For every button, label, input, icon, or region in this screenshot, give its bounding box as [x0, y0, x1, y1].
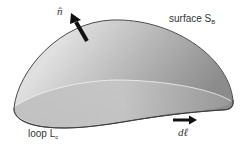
loop-label: loop Lc	[28, 128, 58, 140]
surface-label: surface SB	[169, 13, 215, 25]
surface-label-text: surface S	[169, 13, 211, 24]
line-element-arrow-icon	[173, 116, 197, 125]
loop-label-subscript: c	[55, 134, 58, 140]
line-element-label: dℓ⃗	[178, 126, 197, 138]
surface-label-subscript: B	[211, 19, 215, 25]
loop-label-text: loop L	[28, 128, 55, 139]
normal-label: n̂	[57, 5, 63, 17]
